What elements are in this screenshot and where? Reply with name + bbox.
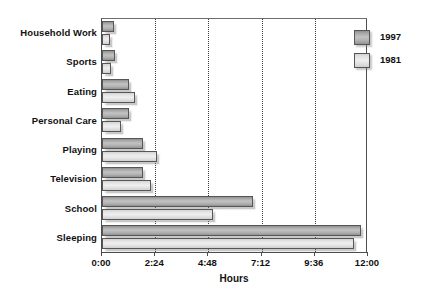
plot-area xyxy=(101,18,367,252)
y-label-eating: Eating xyxy=(1,86,97,97)
legend-item-1981[interactable]: 1981 xyxy=(354,51,430,74)
legend-label-1997: 1997 xyxy=(380,31,401,42)
xtick-label-4: 9:36 xyxy=(284,257,344,268)
x-axis-title: Hours xyxy=(101,273,367,284)
bar-group-personal-care xyxy=(102,107,368,136)
bar-1997-sports[interactable] xyxy=(102,50,115,61)
y-label-household-work: Household Work xyxy=(1,27,97,38)
bar-1997-household-work[interactable] xyxy=(102,21,114,32)
axis-x-line xyxy=(101,252,367,253)
y-label-sports: Sports xyxy=(1,56,97,67)
xtick-mark-3 xyxy=(261,252,262,256)
bar-group-playing xyxy=(102,136,368,165)
y-label-personal-care: Personal Care xyxy=(1,115,97,126)
bar-1981-playing[interactable] xyxy=(102,151,157,162)
bar-chart: Household Work Sports Eating Personal Ca… xyxy=(0,0,433,297)
bar-1981-television[interactable] xyxy=(102,180,151,191)
xtick-label-2: 4:48 xyxy=(177,257,237,268)
legend-label-1981: 1981 xyxy=(380,54,401,65)
xtick-mark-2 xyxy=(207,252,208,256)
y-label-television: Television xyxy=(1,173,97,184)
bar-1981-personal-care[interactable] xyxy=(102,121,121,132)
xtick-label-0: 0:00 xyxy=(71,257,131,268)
legend-swatch-1981-icon xyxy=(354,53,370,68)
bar-1997-sleeping[interactable] xyxy=(102,225,361,236)
bar-group-eating xyxy=(102,78,368,107)
bar-1997-school[interactable] xyxy=(102,196,253,207)
y-label-playing: Playing xyxy=(1,144,97,155)
xtick-mark-0 xyxy=(101,252,102,256)
bar-1981-eating[interactable] xyxy=(102,92,135,103)
xtick-mark-4 xyxy=(314,252,315,256)
xtick-label-5: 12:00 xyxy=(337,257,397,268)
y-label-school: School xyxy=(1,203,97,214)
bar-1981-school[interactable] xyxy=(102,209,213,220)
bar-1997-eating[interactable] xyxy=(102,79,129,90)
xtick-mark-5 xyxy=(367,252,368,256)
bar-group-household-work xyxy=(102,19,368,48)
legend-item-1997[interactable]: 1997 xyxy=(354,28,430,51)
legend-swatch-1997-icon xyxy=(354,30,370,45)
bar-1981-household-work[interactable] xyxy=(102,34,110,45)
bar-group-television xyxy=(102,165,368,194)
bar-1997-playing[interactable] xyxy=(102,138,143,149)
xtick-label-3: 7:12 xyxy=(231,257,291,268)
bar-1981-sports[interactable] xyxy=(102,63,111,74)
bar-group-school xyxy=(102,195,368,224)
y-axis-labels: Household Work Sports Eating Personal Ca… xyxy=(0,18,97,252)
bar-1997-television[interactable] xyxy=(102,167,143,178)
bar-group-sports xyxy=(102,48,368,77)
xtick-mark-1 xyxy=(154,252,155,256)
bar-1981-sleeping[interactable] xyxy=(102,238,354,249)
bar-group-sleeping xyxy=(102,224,368,253)
legend: 1997 1981 xyxy=(354,28,430,74)
bar-1997-personal-care[interactable] xyxy=(102,108,129,119)
y-label-sleeping: Sleeping xyxy=(1,232,97,243)
xtick-label-1: 2:24 xyxy=(124,257,184,268)
